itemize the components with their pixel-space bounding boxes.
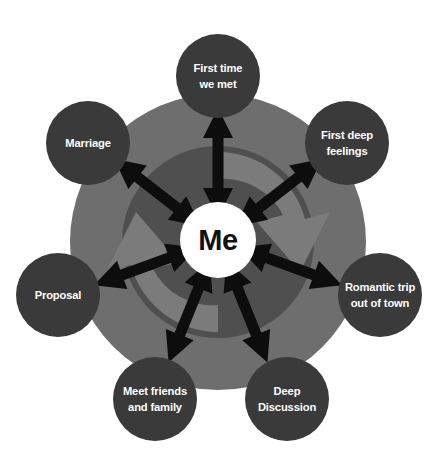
node-label-line2: and family	[128, 401, 183, 413]
node-marriage[interactable]: Marriage	[46, 101, 130, 185]
node-deep-discussion[interactable]: Deep Discussion	[245, 357, 329, 441]
diagram-canvas: First time we met First deep feelings Ro…	[0, 0, 436, 459]
node-label-line2: we met	[198, 78, 236, 90]
node-romantic-trip-out-of-town[interactable]: Romantic trip out of town	[338, 253, 422, 337]
node-label-line1: Marriage	[65, 137, 110, 149]
node-circle[interactable]	[176, 34, 260, 118]
center-hub-label: Me	[198, 224, 238, 256]
node-label-line2: Discussion	[258, 401, 317, 413]
node-proposal[interactable]: Proposal	[16, 253, 100, 337]
node-meet-friends-and-family[interactable]: Meet friends and family	[113, 357, 197, 441]
node-label-line1: Deep	[274, 385, 301, 397]
node-label-line1: First time	[194, 62, 243, 74]
node-circle[interactable]	[338, 253, 422, 337]
node-first-time-we-met[interactable]: First time we met	[176, 34, 260, 118]
node-label-line2: out of town	[351, 297, 410, 309]
node-label-line1: Proposal	[35, 289, 82, 301]
node-circle[interactable]	[305, 101, 389, 185]
node-label-line2: feelings	[326, 145, 367, 157]
node-circle[interactable]	[245, 357, 329, 441]
node-first-deep-feelings[interactable]: First deep feelings	[305, 101, 389, 185]
node-circle[interactable]	[113, 357, 197, 441]
node-label-line1: Romantic trip	[345, 281, 415, 293]
radial-diagram: First time we met First deep feelings Ro…	[0, 0, 436, 459]
node-label-line1: Meet friends	[123, 385, 187, 397]
node-label-line1: First deep	[321, 129, 373, 141]
center-hub[interactable]: Me	[180, 202, 256, 278]
